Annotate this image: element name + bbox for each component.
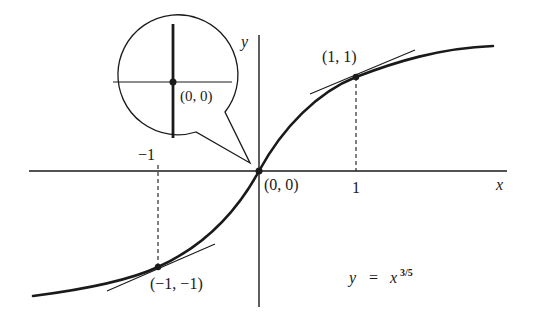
point-neg1-neg1: [155, 264, 161, 270]
point-origin: [256, 168, 263, 175]
tick-label-neg1: −1: [138, 146, 155, 163]
equation-label: y = x 3/5: [347, 267, 413, 287]
equation-exponent: 3/5: [400, 267, 413, 278]
equation-equals: =: [369, 269, 378, 286]
y-axis-label: y: [239, 33, 249, 51]
point-label-neg1-neg1: (−1, −1): [150, 275, 203, 293]
inset-origin-point: [170, 79, 177, 86]
point-1-1: [353, 74, 359, 80]
point-label-origin: (0, 0): [264, 176, 299, 194]
magnified-inset: (0, 0): [113, 15, 250, 163]
equation-lhs: y: [347, 269, 357, 287]
point-label-1-1: (1, 1): [322, 48, 357, 66]
equation-base: x: [389, 269, 397, 286]
diagram-canvas: (0, 0) y x −1 1 (0, 0) (1, 1) (−1, −1) y…: [0, 0, 533, 320]
tick-label-1: 1: [352, 179, 360, 196]
inset-origin-label: (0, 0): [180, 88, 213, 105]
x-axis-label: x: [495, 176, 503, 193]
